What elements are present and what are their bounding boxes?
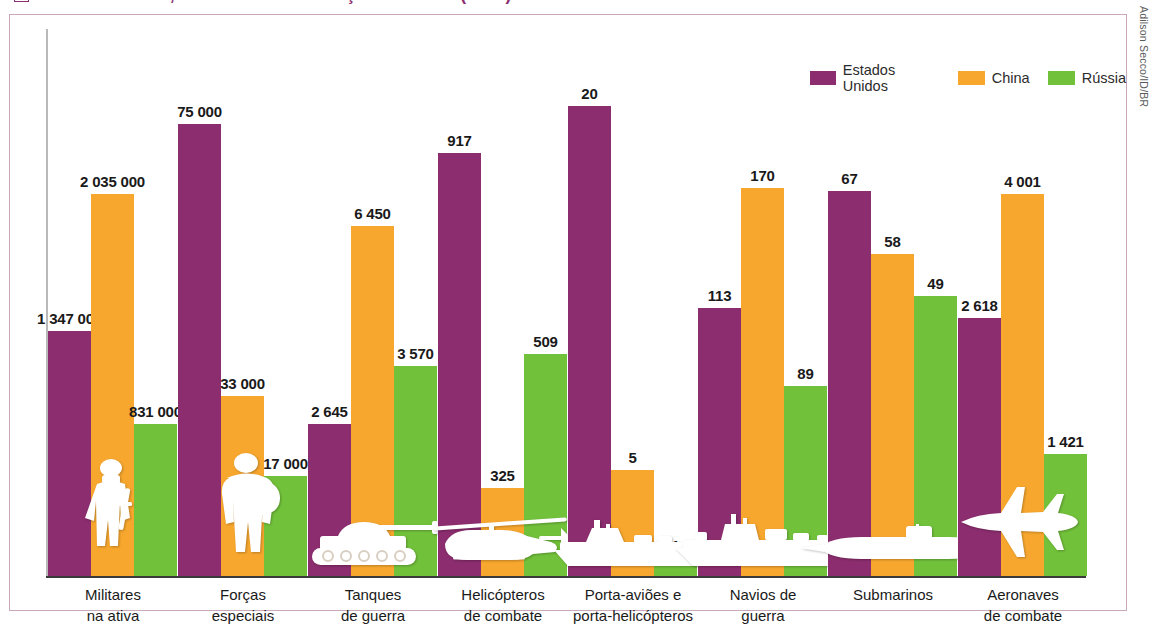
bar[interactable]: 917 (438, 153, 481, 576)
bar-value-label: 17 000 (263, 455, 308, 472)
bar-value-label: 67 (841, 170, 857, 187)
bar[interactable]: 6 450 (351, 226, 394, 576)
category-label-line: Tanques (308, 585, 438, 606)
bar[interactable]: 1 421 (1044, 454, 1087, 576)
bar-group: 1 347 0002 035 000831 000 (48, 51, 178, 576)
category-label: Helicópterosde combate (438, 585, 568, 628)
category-label: Militaresna ativa (48, 585, 178, 628)
page-title: Estados Unidos, China e Rússia: Forças A… (36, 0, 511, 5)
title-bullet-box-icon (14, 0, 29, 2)
bar-value-label: 917 (447, 132, 471, 149)
bar[interactable]: 89 (784, 386, 827, 576)
bar-value-label: 2 645 (311, 403, 348, 420)
category-label-line: Porta-aviões e (568, 585, 698, 606)
bar-value-label: 20 (581, 85, 597, 102)
category-label: Tanquesde guerra (308, 585, 438, 628)
bar[interactable]: 2 645 (308, 424, 351, 576)
bar-value-label: 1 (671, 537, 679, 554)
category-label-line: Aeronaves (958, 585, 1088, 606)
category-label: Porta-aviões eporta-helicópteros (568, 585, 698, 628)
category-label-line: de guerra (308, 606, 438, 627)
category-label-line: de combate (438, 606, 568, 627)
bar[interactable]: 170 (741, 188, 784, 576)
bar-value-label: 3 570 (397, 345, 434, 362)
category-label-line: Submarinos (828, 585, 958, 606)
x-axis-baseline (46, 576, 1086, 579)
bar-value-label: 325 (490, 467, 514, 484)
chart-panel: Estados UnidosChinaRússia 1 347 0002 035… (9, 14, 1127, 611)
bar[interactable]: 49 (914, 296, 957, 576)
bar-value-label: 509 (533, 333, 557, 350)
category-label-line: Helicópteros (438, 585, 568, 606)
bar-value-label: 6 450 (354, 205, 391, 222)
plot-area: 1 347 0002 035 000831 00075 00033 00017 … (32, 51, 1114, 578)
bar[interactable]: 4 001 (1001, 194, 1044, 576)
category-label: Submarinos (828, 585, 958, 628)
bar-value-label: 2 035 000 (80, 173, 145, 190)
bar-group: 2 6184 0011 421 (958, 51, 1088, 576)
bar-value-label: 75 000 (177, 103, 222, 120)
bar[interactable]: 113 (698, 308, 741, 576)
bar-value-label: 58 (884, 233, 900, 250)
bar[interactable]: 75 000 (178, 124, 221, 576)
category-label-line: de combate (958, 606, 1088, 627)
bar[interactable]: 17 000 (264, 476, 307, 576)
bar-value-label: 89 (797, 365, 813, 382)
bar[interactable]: 67 (828, 191, 871, 576)
bar[interactable]: 5 (611, 470, 654, 576)
category-label-line: Militares (48, 585, 178, 606)
bar-value-label: 49 (927, 275, 943, 292)
bar[interactable]: 3 570 (394, 366, 437, 576)
bar-group: 11317089 (698, 51, 828, 576)
bar-value-label: 170 (750, 167, 774, 184)
bar[interactable]: 2 035 000 (91, 194, 134, 576)
bar[interactable]: 1 (654, 558, 697, 576)
bar-group: 2051 (568, 51, 698, 576)
bar-group: 2 6456 4503 570 (308, 51, 438, 576)
bar-value-label: 5 (628, 449, 636, 466)
image-credit-text: Adilson Secco/ID/BR (1138, 6, 1150, 107)
category-label: Forçasespeciais (178, 585, 308, 628)
bar[interactable]: 325 (481, 488, 524, 576)
bar-group: 917325509 (438, 51, 568, 576)
bar-value-label: 1 421 (1047, 433, 1084, 450)
bar-value-label: 4 001 (1004, 173, 1041, 190)
category-label: Aeronavesde combate (958, 585, 1088, 628)
category-label-line: guerra (698, 606, 828, 627)
bar-group: 75 00033 00017 000 (178, 51, 308, 576)
category-labels: Militaresna ativaForçasespeciaisTanquesd… (48, 585, 1088, 628)
bar-value-label: 33 000 (220, 375, 265, 392)
bar[interactable]: 58 (871, 254, 914, 576)
bar[interactable]: 831 000 (134, 424, 177, 576)
bar-group: 675849 (828, 51, 958, 576)
bar-groups: 1 347 0002 035 000831 00075 00033 00017 … (48, 51, 1114, 576)
category-label-line: Forças (178, 585, 308, 606)
category-label-line: porta-helicópteros (568, 606, 698, 627)
category-label-line: especiais (178, 606, 308, 627)
category-label: Navios deguerra (698, 585, 828, 628)
bar[interactable]: 33 000 (221, 396, 264, 576)
bar-value-label: 831 000 (129, 403, 182, 420)
chart-title-strip: Estados Unidos, China e Rússia: Forças A… (0, 0, 1154, 11)
bar-value-label: 113 (708, 287, 732, 304)
image-credit: Adilson Secco/ID/BR (1136, 6, 1152, 186)
category-label-line: na ativa (48, 606, 178, 627)
bar-value-label: 2 618 (961, 297, 998, 314)
bar[interactable]: 509 (524, 354, 567, 576)
category-label-line: Navios de (698, 585, 828, 606)
bar[interactable]: 1 347 000 (48, 331, 91, 576)
bar[interactable]: 2 618 (958, 318, 1001, 576)
bar[interactable]: 20 (568, 106, 611, 576)
